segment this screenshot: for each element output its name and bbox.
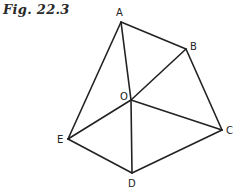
point-label-a: A	[116, 7, 123, 18]
segment-de	[68, 139, 132, 173]
segment-oa	[121, 22, 131, 100]
pentagon-diagram: ABCDEO	[0, 0, 239, 196]
point-label-o: O	[120, 91, 128, 102]
segment-cd	[132, 130, 222, 173]
edges-group	[68, 22, 222, 173]
labels-group: ABCDEO	[57, 7, 233, 189]
segment-ea	[68, 22, 121, 139]
point-label-b: B	[190, 41, 197, 52]
segment-bc	[186, 49, 222, 130]
segment-oc	[131, 100, 222, 130]
segment-od	[131, 100, 132, 173]
point-label-d: D	[128, 178, 136, 189]
point-label-c: C	[226, 125, 233, 136]
segment-ob	[131, 49, 186, 100]
point-label-e: E	[57, 134, 63, 145]
segment-ab	[121, 22, 186, 49]
